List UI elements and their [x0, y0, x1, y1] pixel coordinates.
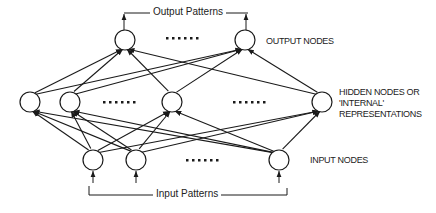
hidden-ellipsis-1	[109, 101, 112, 104]
hidden-ellipsis-1	[115, 101, 118, 104]
edge-h4-o1	[128, 49, 316, 94]
edge-h1-o2	[36, 49, 242, 94]
output-node-o1	[115, 30, 135, 50]
input-node-i3	[269, 150, 289, 170]
input-ellipsis	[186, 159, 189, 162]
hidden-nodes-label-1: HIDDEN NODES OR	[339, 87, 420, 98]
hidden-node-h1	[20, 92, 40, 112]
hidden-ellipsis-2	[245, 101, 248, 104]
input-node-i1	[83, 150, 103, 170]
edge-i3-h1	[33, 111, 273, 153]
output-ellipsis	[190, 37, 193, 40]
hidden-ellipsis-2	[239, 101, 242, 104]
hidden-nodes-label-3: REPRESENTATIONS	[339, 109, 422, 120]
input-ellipsis	[210, 159, 213, 162]
edge-h2-o2	[76, 49, 243, 94]
hidden-ellipsis-2	[257, 101, 260, 104]
input-ellipsis	[192, 159, 195, 162]
nodes	[20, 30, 332, 170]
hidden-ellipsis-2	[251, 101, 254, 104]
edge-h2-o1	[74, 49, 123, 92]
output-ellipsis	[166, 37, 169, 40]
output-ellipsis	[172, 37, 175, 40]
output-ellipsis	[178, 37, 181, 40]
output-patterns-label: Output Patterns	[150, 6, 226, 17]
output-ellipsis	[196, 37, 199, 40]
hidden-node-h3	[162, 92, 182, 112]
hidden-node-h2	[60, 92, 80, 112]
input-ellipsis	[216, 159, 219, 162]
hidden-ellipsis-1	[103, 101, 106, 104]
output-nodes-label: OUTPUT NODES	[266, 36, 334, 47]
edge-i2-h4	[142, 111, 319, 152]
hidden-ellipsis-1	[121, 101, 124, 104]
input-nodes-label: INPUT NODES	[310, 155, 368, 166]
input-ellipsis	[198, 159, 201, 162]
hidden-ellipsis-2	[263, 101, 266, 104]
edge-h1-o1	[35, 49, 122, 93]
output-node-o2	[235, 30, 255, 50]
hidden-nodes-label-2: 'INTERNAL'	[339, 98, 384, 109]
input-ellipsis	[204, 159, 207, 162]
edge-i1-h3	[98, 111, 170, 150]
hidden-ellipsis-1	[133, 101, 136, 104]
output-ellipsis	[184, 37, 187, 40]
input-node-i2	[126, 150, 146, 170]
edge-h3-o2	[177, 49, 243, 92]
hidden-ellipsis-2	[233, 101, 236, 104]
hidden-ellipsis-1	[127, 101, 130, 104]
input-patterns-label: Input Patterns	[153, 188, 221, 199]
hidden-node-h4	[312, 92, 332, 112]
edge-i3-h3	[175, 111, 274, 151]
